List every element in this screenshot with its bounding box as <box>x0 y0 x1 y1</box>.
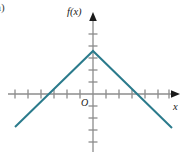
x-axis-label: x <box>172 101 178 112</box>
figure-container: a) <box>0 0 189 160</box>
panel-label: a) <box>0 1 5 13</box>
function-graph: f(x) x O <box>0 0 189 160</box>
origin-label: O <box>81 97 88 108</box>
y-axis-label: f(x) <box>67 6 82 18</box>
x-axis-arrow-icon <box>171 90 180 98</box>
y-axis-arrow-icon <box>89 12 97 21</box>
